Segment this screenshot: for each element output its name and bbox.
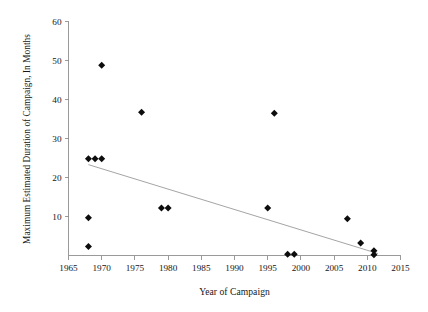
x-tick-label: 1980 [159, 263, 178, 273]
x-tick-label: 1975 [126, 263, 145, 273]
data-point-marker [370, 251, 377, 258]
data-point-marker [85, 214, 92, 221]
data-point-marker [357, 240, 364, 247]
data-point-marker [271, 110, 278, 117]
trend-line [88, 165, 378, 254]
x-tick-label: 2000 [292, 263, 311, 273]
x-tick-label: 1990 [225, 263, 244, 273]
x-tick-label: 1985 [192, 263, 211, 273]
x-tick-label: 1995 [259, 263, 278, 273]
trend-line-segment [88, 165, 378, 254]
y-tick-label: 60 [52, 17, 62, 27]
data-point-marker [284, 251, 291, 258]
y-tick-label: 40 [52, 95, 62, 105]
data-markers [85, 62, 378, 259]
data-point-marker [264, 204, 271, 211]
data-point-marker [165, 204, 172, 211]
data-point-marker [158, 204, 165, 211]
data-point-marker [138, 109, 145, 116]
data-point-marker [85, 155, 92, 162]
plot-area: 102030405060 196519701975198019851990199… [0, 0, 428, 312]
y-tick-label: 20 [52, 173, 62, 183]
x-tick-label: 1965 [59, 263, 78, 273]
x-tick-label: 2015 [391, 263, 410, 273]
y-tick-label: 30 [52, 134, 62, 144]
y-tick-label: 10 [52, 212, 62, 222]
x-tick-label: 1970 [93, 263, 112, 273]
data-point-marker [92, 155, 99, 162]
x-tick-label: 2010 [358, 263, 377, 273]
scatter-chart-figure: Maximum Estimated Duration of Campaign, … [0, 0, 428, 312]
x-tick-label: 2005 [325, 263, 344, 273]
data-point-marker [85, 243, 92, 250]
x-axis: 1965197019751980198519901995200020052010… [59, 256, 410, 273]
y-tick-label: 50 [52, 56, 62, 66]
data-point-marker [98, 62, 105, 69]
y-axis: 102030405060 [52, 17, 68, 256]
data-point-marker [291, 251, 298, 258]
data-point-marker [98, 155, 105, 162]
data-point-marker [344, 215, 351, 222]
